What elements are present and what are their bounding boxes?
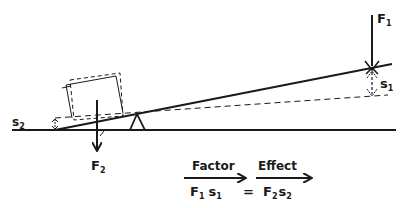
lever-bar	[55, 64, 392, 130]
equation-rhs: F2s2	[263, 184, 292, 201]
load-box-tilted	[66, 76, 123, 118]
f1-label: F1	[377, 11, 392, 28]
lever-diagram: F1 s1 s2 F2 Factor Effect F1s1 = F2s2	[0, 0, 414, 208]
s2-label: s2	[12, 115, 25, 131]
f2-label: F2	[91, 158, 105, 175]
factor-label: Factor	[192, 159, 235, 173]
effect-label: Effect	[258, 159, 297, 173]
f2-small-tick	[100, 131, 104, 136]
s1-label: s1	[380, 76, 394, 93]
equation-lhs: F1s1	[190, 184, 222, 201]
fulcrum	[130, 114, 145, 130]
equation-equals: =	[243, 184, 254, 199]
